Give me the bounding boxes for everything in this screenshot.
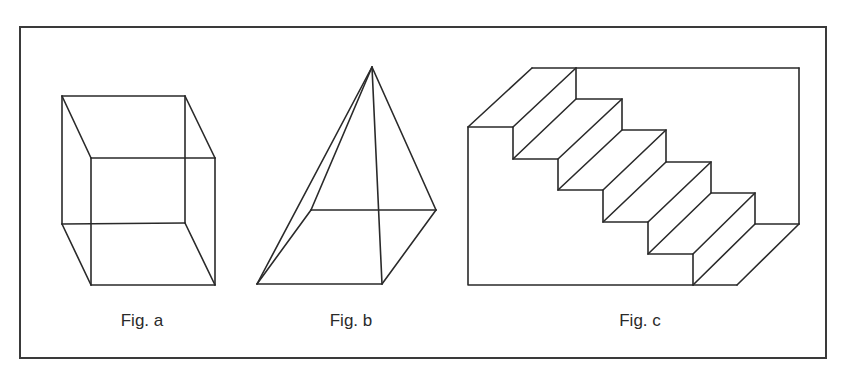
cube-edge xyxy=(62,96,91,158)
figure-frame xyxy=(20,27,826,358)
pyramid-edge xyxy=(257,67,372,284)
cube-edge xyxy=(185,96,215,158)
figure-panel: Fig. a Fig. b Fig. c xyxy=(0,0,846,380)
cube-edge xyxy=(62,223,185,224)
staircase-figure xyxy=(468,68,799,285)
pyramid-edge xyxy=(372,67,436,210)
pyramid-edge xyxy=(382,210,436,284)
pyramid-edge xyxy=(311,67,372,210)
cube-edge xyxy=(62,224,91,285)
pyramid-edge xyxy=(372,67,382,284)
pyramid-figure xyxy=(257,67,436,284)
cube-edge xyxy=(185,223,215,285)
pyramid-edge xyxy=(257,210,311,284)
stair-front-profile xyxy=(468,127,693,285)
cube-figure xyxy=(62,96,215,285)
caption-fig-a: Fig. a xyxy=(121,311,164,331)
caption-fig-c: Fig. c xyxy=(619,311,661,331)
caption-fig-b: Fig. b xyxy=(330,311,373,331)
